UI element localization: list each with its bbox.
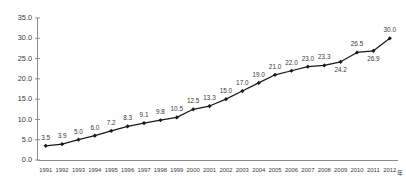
data-point-marker [224, 97, 228, 101]
y-axis-tick-label: 15.0 [2, 95, 32, 102]
x-axis-tick-label: 2007 [300, 168, 316, 174]
y-axis-tick-label: 20.0 [2, 75, 32, 82]
y-axis-tick-label: 25.0 [2, 55, 32, 62]
data-point-marker [126, 124, 130, 128]
x-axis-tick-label: 2000 [185, 168, 201, 174]
x-axis-tick-label: 2004 [251, 168, 267, 174]
x-axis-tick-label: 2006 [283, 168, 299, 174]
x-axis-tick-label: 1997 [136, 168, 152, 174]
x-axis-tick-label: 2008 [316, 168, 332, 174]
data-point-marker [306, 65, 310, 69]
x-axis-unit-label: 年 [397, 168, 403, 177]
y-axis-tick-label: 30.0 [2, 34, 32, 41]
data-point-marker [191, 107, 195, 111]
data-point-marker [109, 129, 113, 133]
data-point-marker [175, 115, 179, 119]
line-chart: 0.05.010.015.020.025.030.035.0 199119921… [0, 0, 406, 188]
x-axis-tick-label: 1991 [38, 168, 54, 174]
data-point-label: 23.3 [313, 54, 335, 60]
data-point-marker [142, 121, 146, 125]
data-point-label: 26.5 [346, 41, 368, 47]
x-axis-tick-label: 2003 [234, 168, 250, 174]
x-axis-tick-label: 2010 [349, 168, 365, 174]
data-point-marker [322, 63, 326, 67]
x-axis-tick-label: 1996 [119, 168, 135, 174]
x-axis-tick-label: 2009 [332, 168, 348, 174]
x-axis-tick-label: 2005 [267, 168, 283, 174]
y-axis-tick-label: 5.0 [2, 136, 32, 143]
data-point-label: 13.3 [199, 95, 221, 101]
x-axis-tick-label: 2002 [218, 168, 234, 174]
data-point-marker [289, 69, 293, 73]
data-point-label: 19.0 [248, 72, 270, 78]
x-axis-tick-label: 2001 [201, 168, 217, 174]
y-axis-tick-label: 35.0 [2, 14, 32, 21]
x-axis-tick-label: 1999 [169, 168, 185, 174]
x-axis-tick-label: 1994 [87, 168, 103, 174]
data-point-label: 15.0 [215, 88, 237, 94]
data-point-marker [240, 89, 244, 93]
x-axis-tick-label: 1993 [70, 168, 86, 174]
data-point-marker [76, 138, 80, 142]
x-axis-tick-label: 1992 [54, 168, 70, 174]
data-point-marker [93, 134, 97, 138]
data-point-label: 17.0 [231, 80, 253, 86]
y-axis-tick-label: 10.0 [2, 116, 32, 123]
data-point-marker [44, 144, 48, 148]
x-axis-tick-label: 1998 [152, 168, 168, 174]
data-point-label: 10.5 [166, 106, 188, 112]
x-axis-tick-label: 1995 [103, 168, 119, 174]
data-point-marker [273, 73, 277, 77]
data-point-marker [60, 142, 64, 146]
data-point-marker [207, 104, 211, 108]
x-axis-tick-label: 2011 [365, 168, 381, 174]
data-point-label: 24.2 [330, 67, 352, 73]
data-point-label: 30.0 [379, 27, 401, 33]
data-point-marker [158, 118, 162, 122]
y-axis-tick-label: 0.0 [2, 156, 32, 163]
x-axis-tick-label: 2012 [382, 168, 398, 174]
data-point-marker [257, 81, 261, 85]
data-point-label: 26.9 [362, 56, 384, 62]
